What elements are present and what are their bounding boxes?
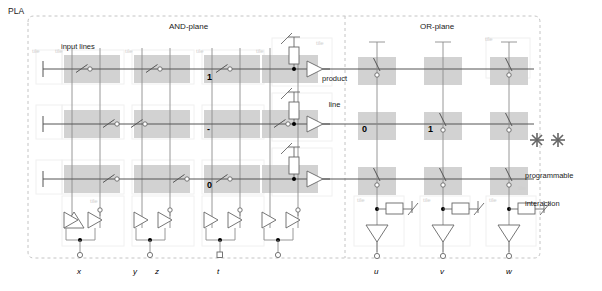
and-bit-r0c2: 1 [207, 72, 212, 82]
programmable-interaction-glyph-1 [530, 133, 544, 147]
input-driver-x [64, 208, 102, 258]
legend-line-1: programmable [525, 171, 573, 180]
input-label-z: z [155, 267, 159, 276]
product-line-label: product line [322, 58, 347, 127]
input-driver-z [204, 208, 242, 258]
and-plane-label: AND-plane [169, 22, 208, 31]
input-label-t: t [217, 267, 219, 276]
tile-label: tile [489, 197, 497, 203]
tile-label: tile [485, 36, 493, 42]
tile-label: tile [196, 48, 204, 54]
tile-label: tile [357, 197, 365, 203]
page-title: PLA [8, 6, 24, 16]
legend-programmable-interaction: programmable interaction [525, 152, 573, 227]
output-label-v: v [440, 267, 444, 276]
input-label-y: y [133, 267, 137, 276]
output-stage-u [366, 201, 418, 259]
and-bit-r2c2: 0 [207, 180, 212, 190]
or-plane-label: OR-plane [420, 22, 454, 31]
input-lines-label: input lines [61, 42, 95, 51]
or-bit-r1c0: 0 [362, 124, 367, 134]
or-bit-r1c1: 1 [428, 124, 433, 134]
product-line-label-line2: line [322, 101, 347, 110]
legend-line-2: interaction [525, 199, 573, 208]
input-label-x: x [77, 267, 81, 276]
input-driver-y [134, 208, 172, 258]
tile-label: tile [256, 48, 264, 54]
output-label-w: w [506, 267, 512, 276]
and-bit-r1c2: - [207, 124, 210, 134]
output-label-u: u [374, 267, 378, 276]
tile-label: tile [316, 40, 324, 46]
tile-label: tile [90, 198, 98, 204]
tile-label: tile [55, 48, 63, 54]
tile-label: tile [32, 48, 40, 54]
product-line-label-line1: product [322, 75, 347, 84]
programmable-interaction-glyph-2 [551, 133, 565, 147]
pla-diagram: PLA AND-plane OR-plane input lines produ… [0, 0, 602, 291]
input-driver-t [262, 208, 300, 258]
output-stage-v [432, 201, 484, 259]
tile-label: tile [423, 197, 431, 203]
tile-label: tile [125, 48, 133, 54]
